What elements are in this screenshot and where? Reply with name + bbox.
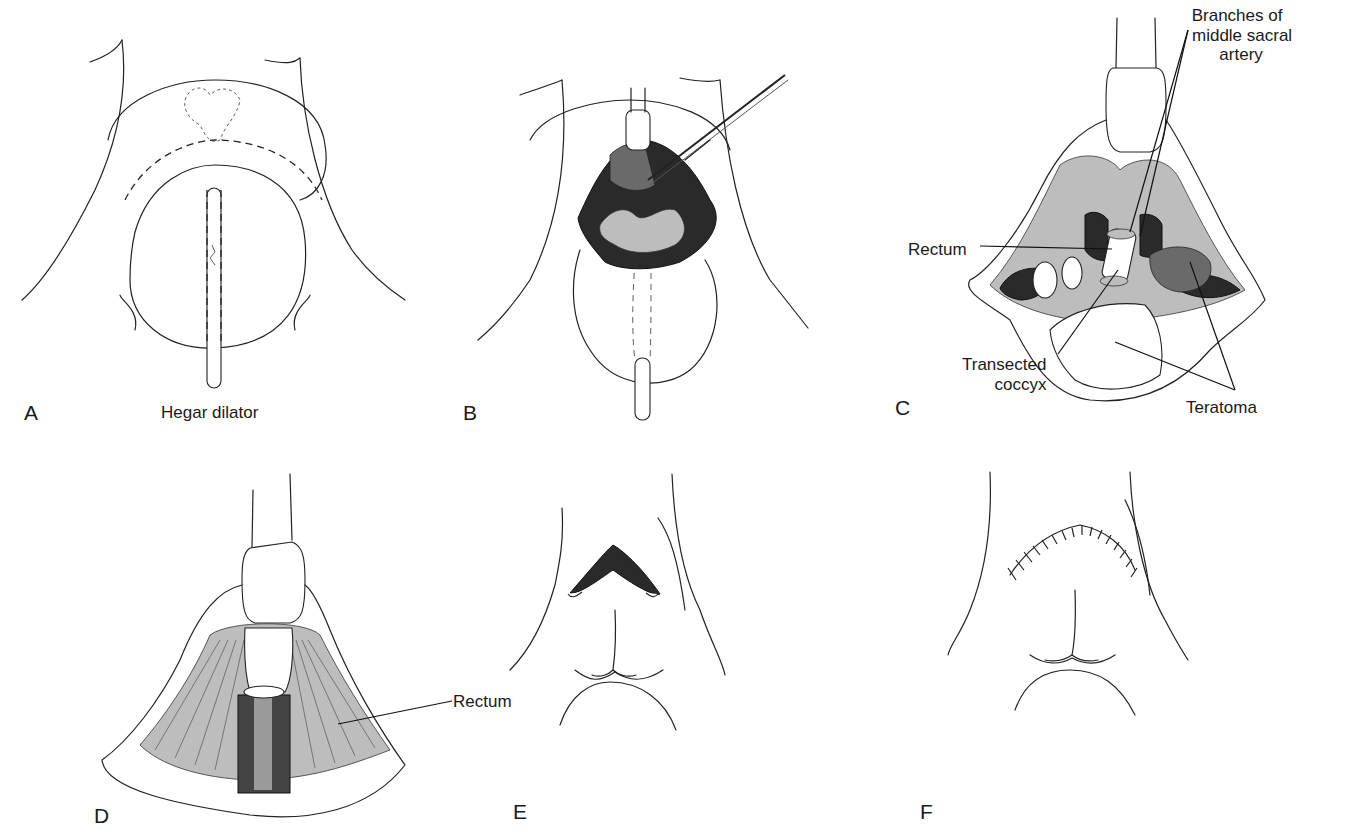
panel-letter-d: D [94,805,109,826]
annotation-transected-coccyx: Transected coccyx [962,355,1046,394]
panel-d-illustration [80,460,500,831]
panel-letter-f: F [920,801,933,822]
panel-f: F [920,460,1347,831]
annotation-transected-line-1: Transected [962,355,1046,375]
panel-letter-b: B [463,402,477,423]
annotation-branches-middle-sacral-artery: Branches of middle sacral artery [1182,6,1292,65]
panel-letter-a: A [24,402,38,423]
annotation-hegar-dilator: Hegar dilator [161,403,258,423]
annotation-branches-line-2: middle sacral [1192,26,1292,46]
panel-a-illustration [0,0,450,440]
panel-b: B [450,0,880,440]
annotation-branches-line-3: artery [1190,45,1292,65]
panel-c: Branches of middle sacral artery Rectum … [880,0,1347,440]
panel-e: E [500,460,920,831]
panel-letter-c: C [895,397,910,418]
annotation-branches-line-1: Branches of [1182,6,1292,26]
annotation-teratoma: Teratoma [1186,398,1257,418]
annotation-transected-line-2: coccyx [962,375,1046,395]
panel-c-illustration [880,0,1347,440]
panel-letter-e: E [513,801,527,822]
panel-d: Rectum D [80,460,500,831]
panel-f-illustration [920,460,1347,831]
panel-a: A Hegar dilator [0,0,450,440]
annotation-rectum-c: Rectum [908,240,967,260]
panel-e-illustration [500,460,920,831]
panel-b-illustration [450,0,880,440]
